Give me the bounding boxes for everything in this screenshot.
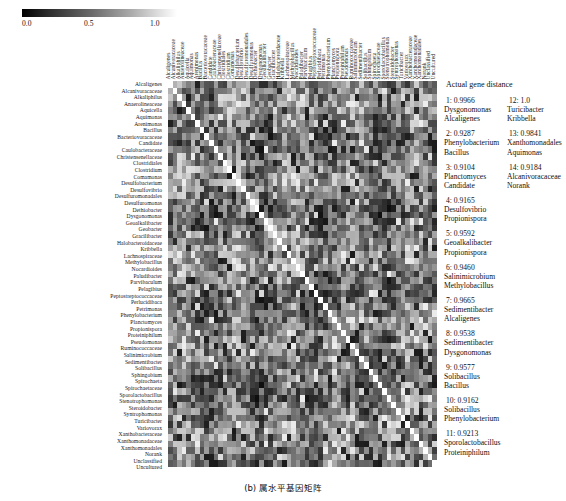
row-axis-label: Propionispora	[130, 326, 165, 333]
legend-entry-taxon-a: Sedimentibacter	[444, 338, 501, 347]
legend-entry-taxon-b: Dysgonomonas	[444, 348, 501, 357]
colorbar: 0.0 0.5 1.0	[22, 9, 182, 31]
row-axis-label: Bacillus	[143, 127, 165, 134]
legend-entry-taxon-a: Solibacillus	[444, 372, 501, 381]
row-axis-label: Uncultured	[136, 464, 165, 471]
legend-entry-taxon-b: Alcaligenes	[444, 314, 501, 323]
legend-entry-taxon-b: Alcaligenes	[444, 114, 501, 123]
row-axis-label: Desulfuromonadales	[115, 193, 165, 200]
row-axis-label: Candidate	[139, 140, 165, 147]
row-axis-label: Alcanivoracaceae	[121, 88, 165, 95]
row-axis-label: Spirochaetaceae	[125, 385, 165, 392]
legend-entry: 3: 0.9104PlanctomycesCandidate	[444, 163, 501, 191]
row-axis-label: Norank	[145, 451, 165, 458]
row-axis-label: Aquimonas	[136, 114, 165, 121]
row-axis-label: Comamonas	[134, 174, 165, 181]
legend-entry: 8: 0.9538SedimentibacterDysgonomonas	[444, 329, 501, 357]
legend-entry-taxon-a: Salinimicrobium	[444, 272, 501, 281]
colorbar-gradient	[22, 9, 177, 17]
row-axis-label: Sedimentibacter	[125, 359, 165, 366]
row-axis-label: Unclassified	[133, 458, 165, 465]
colorbar-tick-0: 0.0	[22, 19, 31, 28]
row-axis-label: Spirochaeta	[135, 378, 165, 385]
legend-entry-taxon-a: Planctomyces	[444, 172, 501, 181]
legend-entry-id: 3: 0.9104	[444, 163, 501, 172]
row-axis-label: Caulobacteraceae	[122, 147, 165, 154]
row-axis-label: Aquicella	[140, 107, 165, 114]
legend-entry: 9: 0.9577SolibacillusBacillus	[444, 363, 501, 391]
row-axis-label: Bacteriovoracaceae	[117, 134, 165, 141]
row-axis-label: Steroidobacter	[129, 405, 165, 412]
column-axis-label: Uncultured	[430, 54, 437, 80]
row-axis-label: Stenotrophomonas	[119, 398, 165, 405]
legend-entry-id: 12: 1.0	[507, 96, 564, 105]
legend-entry-id: 11: 0.9213	[444, 429, 501, 438]
legend-column-1: 1: 0.9966DysgonomonasAlcaligenes2: 0.928…	[444, 96, 501, 462]
legend-entry-id: 1: 0.9966	[444, 96, 501, 105]
legend-entry: 6: 0.9460SalinimicrobiumMethylobacillus	[444, 263, 501, 291]
row-axis-label: Arenimonas	[134, 121, 165, 128]
legend-entry-taxon-b: Proteiniphilum	[444, 448, 501, 457]
row-axis-label: Salinimicrobium	[124, 352, 165, 359]
row-axis-label: Variovorax	[137, 425, 165, 432]
legend-entry-id: 2: 0.9287	[444, 129, 501, 138]
legend-entry-id: 10: 0.9162	[444, 396, 501, 405]
row-axis-label: Anaerolineaceae	[124, 101, 165, 108]
legend-entry-id: 7: 0.9665	[444, 296, 501, 305]
row-axis-label: Alkaliphilus	[134, 94, 165, 101]
row-axis-label: Xanthomonadaceae	[117, 438, 165, 445]
legend-entry-taxon-b: Bacillus	[444, 381, 501, 390]
legend-entry-taxon-b: Kribbella	[507, 114, 564, 123]
legend-entry-taxon-b: Methylobacillus	[444, 281, 501, 290]
row-axis-labels: AlcaligenesAlcanivoracaceaeAlkaliphilusA…	[0, 81, 165, 467]
row-axis-label: Turicibacter	[134, 418, 165, 425]
legend-entry-taxon-b: Propionispora	[444, 214, 501, 223]
legend-entry: 4: 0.9165DesulfovibrioPropionispora	[444, 196, 501, 224]
legend-entry-id: 13: 0.9841	[507, 129, 564, 138]
row-axis-label: Peptostreptococcaceae	[110, 293, 165, 300]
legend-entry-taxon-a: Xanthomonadales	[507, 138, 564, 147]
legend-entry-taxon-a: Sedimentibacter	[444, 305, 501, 314]
figure-root: 0.0 0.5 1.0 AlcaligenesAlcanivoracaceaeA…	[0, 0, 566, 501]
row-axis-label: Dethiobacter	[133, 207, 166, 214]
legend-entry-id: 5: 0.9592	[444, 229, 501, 238]
heatmap-plot	[168, 81, 437, 467]
colorbar-tick-1: 0.5	[84, 19, 93, 28]
row-axis-label: Methylobacillus	[125, 259, 165, 266]
row-axis-label: Phenylobacterium	[121, 312, 166, 319]
row-axis-label: Parvibaculum	[130, 279, 165, 286]
legend-entry-taxon-b: Candidate	[444, 181, 501, 190]
row-axis-label: Geobacter	[139, 226, 165, 233]
colorbar-tick-2: 1.0	[150, 19, 159, 28]
legend-entry-taxon-a: Geoalkalibacter	[444, 238, 501, 247]
legend-entry-id: 14: 0.9184	[507, 163, 564, 172]
legend-entry: 5: 0.9592GeoalkalibacterPropionispora	[444, 229, 501, 257]
legend-entry: 14: 0.9184AlcanivoracaceaeNorank	[507, 163, 564, 191]
legend-entry-id: 8: 0.9538	[444, 329, 501, 338]
legend-entry: 11: 0.9213SporolactobacillusProteiniphil…	[444, 429, 501, 457]
heatmap-canvas	[168, 81, 437, 467]
row-axis-label: Geoalkalibacter	[126, 220, 165, 227]
legend-entry: 2: 0.9287PhenylobacteriumBacillus	[444, 129, 501, 157]
legend-entry: 13: 0.9841XanthomonadalesAquimonas	[507, 129, 564, 157]
legend-entry-taxon-a: Alcanivoracaceae	[507, 172, 564, 181]
legend-entry-taxon-b: Phenylobacterium	[444, 414, 501, 423]
legend-entry-taxon-b: Norank	[507, 181, 564, 190]
legend-entry: 1: 0.9966DysgonomonasAlcaligenes	[444, 96, 501, 124]
figure-caption: (b) 属水平基因矩阵	[0, 481, 566, 493]
row-axis-label: Desulfobacterium	[121, 180, 165, 187]
legend-entry-id: 4: 0.9165	[444, 196, 501, 205]
row-axis-label: Lachnospiraceae	[124, 253, 165, 260]
row-axis-label: Gracilibacter	[132, 233, 165, 240]
row-axis-label: Christensenellaceae	[117, 154, 165, 161]
row-axis-label: Sphingobium	[131, 372, 165, 379]
legend-entry-taxon-a: Sporolactobacillus	[444, 438, 501, 447]
legend-columns: 1: 0.9966DysgonomonasAlcaligenes2: 0.928…	[444, 96, 566, 462]
row-axis-label: Halobacteroidaceae	[117, 240, 165, 247]
legend-entry-taxon-b: Aquimonas	[507, 148, 564, 157]
row-axis-label: Paludibacter	[133, 273, 165, 280]
legend-entry-taxon-a: Solibacillus	[444, 405, 501, 414]
row-axis-label: Dysgonomonas	[127, 213, 165, 220]
row-axis-label: Desulfuromonas	[124, 200, 165, 207]
row-axis-label: Kribbella	[140, 246, 165, 253]
